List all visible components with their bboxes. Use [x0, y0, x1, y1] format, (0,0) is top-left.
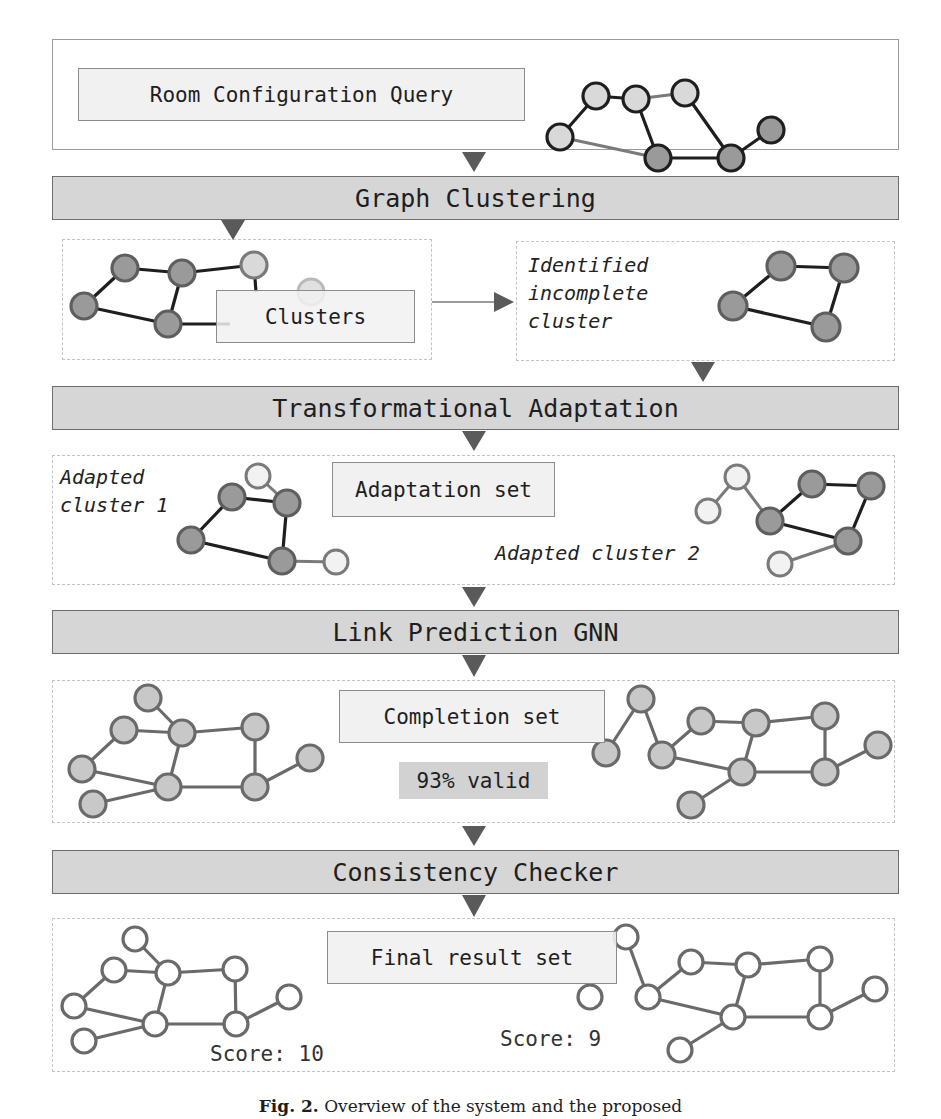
- figure-caption: Fig. 2. Overview of the system and the p…: [0, 1096, 941, 1116]
- validity-badge: 93% valid: [399, 762, 548, 799]
- completion-set-label: Completion set: [383, 705, 560, 729]
- incomplete-cluster-graph: [719, 252, 858, 341]
- completion-set-label-box: Completion set: [339, 690, 605, 743]
- final-graph-left: [62, 927, 301, 1053]
- adapted-cluster-1-line-1: Adapted: [60, 463, 168, 491]
- clusters-label-box: Clusters: [216, 290, 415, 343]
- adaptation-set-label-box: Adaptation set: [332, 462, 555, 517]
- final-graph-right: [578, 925, 887, 1062]
- score-right-text: Score: 9: [500, 1027, 601, 1051]
- score-right: Score: 9: [500, 1027, 601, 1051]
- caption-text: Overview of the system and the proposed: [324, 1096, 682, 1116]
- identified-line-2: incomplete: [528, 279, 648, 307]
- adapted-cluster-2-graph: [696, 465, 884, 576]
- adapted-cluster-1-text: Adapted cluster 1: [60, 463, 168, 519]
- query-graph: [547, 80, 784, 171]
- final-result-set-label-box: Final result set: [327, 931, 617, 984]
- caption-prefix: Fig. 2.: [259, 1096, 319, 1116]
- adapted-cluster-2-text: Adapted cluster 2: [495, 539, 700, 567]
- validity-text: 93% valid: [417, 769, 531, 793]
- clusters-label: Clusters: [265, 305, 366, 329]
- score-left: Score: 10: [210, 1042, 324, 1066]
- adapted-cluster-1-graph: [178, 464, 348, 574]
- adaptation-set-label: Adaptation set: [355, 478, 532, 502]
- adapted-cluster-1-line-2: cluster 1: [60, 491, 168, 519]
- final-result-set-label: Final result set: [371, 946, 573, 970]
- score-left-text: Score: 10: [210, 1042, 324, 1066]
- identified-line-1: Identified: [528, 251, 648, 279]
- identified-cluster-text: Identified incomplete cluster: [528, 251, 648, 335]
- completion-graph-left: [69, 685, 323, 817]
- adapted-cluster-2-label: Adapted cluster 2: [495, 541, 700, 565]
- identified-line-3: cluster: [528, 307, 648, 335]
- completion-graph-right: [593, 686, 891, 818]
